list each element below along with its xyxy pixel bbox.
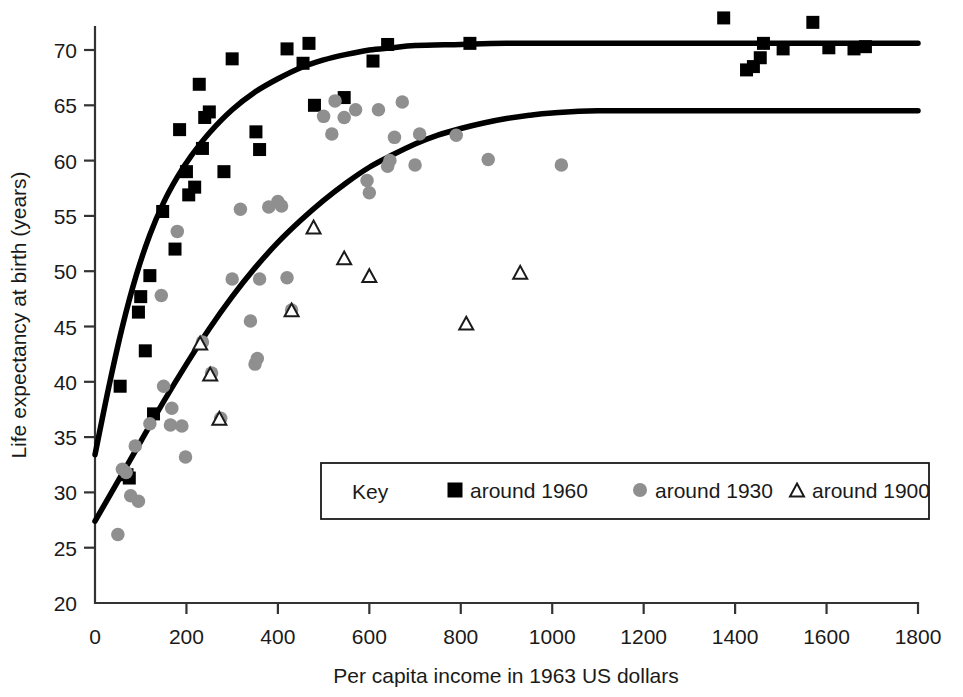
series-around-1960 xyxy=(114,11,872,484)
data-point-square xyxy=(859,40,872,53)
x-tick-label: 1400 xyxy=(712,625,759,648)
legend-entry-label: around 1900 xyxy=(812,479,930,502)
data-point-square xyxy=(196,142,209,155)
data-point-circle xyxy=(175,419,189,433)
y-axis-ticks: 2025303540455055606570 xyxy=(54,39,95,615)
y-tick-label: 65 xyxy=(54,94,77,117)
data-point-square xyxy=(847,42,860,55)
data-point-circle xyxy=(179,450,193,464)
data-point-square xyxy=(754,51,767,64)
data-point-circle xyxy=(164,418,178,432)
x-tick-label: 0 xyxy=(89,625,101,648)
data-point-square xyxy=(134,290,147,303)
legend-marker-circle-icon xyxy=(633,483,647,497)
data-point-square xyxy=(169,243,182,256)
data-point-square xyxy=(188,181,201,194)
x-tick-label: 1200 xyxy=(620,625,667,648)
data-point-square xyxy=(281,42,294,55)
data-point-square xyxy=(297,57,310,70)
data-point-circle xyxy=(157,379,171,393)
scatter-plot: 020040060080010001200140016001800 202530… xyxy=(0,0,963,697)
data-point-square xyxy=(717,11,730,24)
data-point-circle xyxy=(408,158,422,172)
chart-container: 020040060080010001200140016001800 202530… xyxy=(0,0,963,697)
data-point-circle xyxy=(119,466,133,480)
data-point-circle xyxy=(449,128,463,142)
data-point-circle xyxy=(244,314,258,328)
y-tick-label: 35 xyxy=(54,426,77,449)
data-point-circle xyxy=(363,186,377,200)
data-point-circle xyxy=(171,225,185,239)
x-tick-label: 200 xyxy=(169,625,204,648)
data-point-square xyxy=(217,165,230,178)
data-point-square xyxy=(143,269,156,282)
data-point-circle xyxy=(317,110,331,124)
data-point-square xyxy=(366,55,379,68)
legend-title: Key xyxy=(352,480,389,503)
data-point-square xyxy=(249,125,262,138)
data-point-circle xyxy=(128,439,142,453)
legend-entry-label: around 1960 xyxy=(470,479,588,502)
data-point-circle xyxy=(481,153,495,167)
x-axis-title: Per capita income in 1963 US dollars xyxy=(333,664,679,687)
data-point-circle xyxy=(234,203,248,217)
data-point-circle xyxy=(555,158,569,172)
data-point-circle xyxy=(325,127,339,141)
data-point-circle xyxy=(111,528,125,542)
x-tick-label: 1800 xyxy=(895,625,942,648)
data-point-circle xyxy=(372,103,386,117)
data-point-circle xyxy=(337,111,351,125)
data-point-triangle xyxy=(513,266,527,279)
legend-marker-square-icon xyxy=(448,483,463,498)
data-point-square xyxy=(193,78,206,91)
data-point-circle xyxy=(328,94,342,108)
data-point-triangle xyxy=(337,251,351,264)
data-point-square xyxy=(156,205,169,218)
legend[interactable]: Key around 1960around 1930around 1900 xyxy=(321,463,930,519)
data-point-square xyxy=(132,306,145,319)
data-point-square xyxy=(173,123,186,136)
data-point-square xyxy=(226,52,239,65)
y-tick-label: 25 xyxy=(54,537,77,560)
data-point-square xyxy=(302,37,315,50)
data-point-square xyxy=(114,380,127,393)
data-point-circle xyxy=(275,199,289,213)
data-point-square xyxy=(253,143,266,156)
data-point-circle xyxy=(253,272,267,286)
data-point-circle xyxy=(155,289,169,303)
x-tick-label: 400 xyxy=(260,625,295,648)
data-point-square xyxy=(806,16,819,29)
data-point-square xyxy=(463,37,476,50)
data-point-circle xyxy=(251,352,265,366)
data-point-square xyxy=(777,42,790,55)
data-point-circle xyxy=(143,417,157,431)
data-points xyxy=(111,11,872,541)
fit-curves xyxy=(95,43,918,521)
data-point-triangle xyxy=(307,221,321,234)
y-tick-label: 60 xyxy=(54,150,77,173)
data-point-square xyxy=(139,344,152,357)
x-axis-ticks: 020040060080010001200140016001800 xyxy=(89,603,941,648)
data-point-triangle xyxy=(362,269,376,282)
y-tick-label: 20 xyxy=(54,592,77,615)
data-point-circle xyxy=(165,402,179,416)
fit-curve xyxy=(95,43,918,455)
data-point-square xyxy=(381,38,394,51)
x-tick-label: 800 xyxy=(443,625,478,648)
y-tick-label: 45 xyxy=(54,316,77,339)
y-axis-title: Life expectancy at birth (years) xyxy=(7,171,30,458)
data-point-triangle xyxy=(459,317,473,330)
legend-entries: around 1960around 1930around 1900 xyxy=(448,479,930,502)
data-point-circle xyxy=(225,272,239,286)
data-point-circle xyxy=(132,494,146,508)
data-point-square xyxy=(203,105,216,118)
y-tick-label: 50 xyxy=(54,260,77,283)
data-point-square xyxy=(308,99,321,112)
y-tick-label: 70 xyxy=(54,39,77,62)
data-point-circle xyxy=(388,131,402,145)
x-tick-label: 1600 xyxy=(803,625,850,648)
series-around-1900 xyxy=(193,221,527,425)
y-tick-label: 40 xyxy=(54,371,77,394)
legend-entry-label: around 1930 xyxy=(655,479,773,502)
data-point-circle xyxy=(413,127,427,141)
